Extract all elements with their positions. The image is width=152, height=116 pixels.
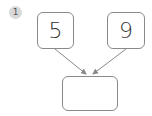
right-number: 9 <box>119 18 133 43</box>
left-number-box: 5 <box>37 12 74 49</box>
answer-box[interactable] <box>62 76 118 111</box>
arrow-right-icon <box>93 49 126 74</box>
right-number-box: 9 <box>107 12 145 49</box>
arrow-left-icon <box>55 49 86 74</box>
left-number: 5 <box>49 18 63 43</box>
